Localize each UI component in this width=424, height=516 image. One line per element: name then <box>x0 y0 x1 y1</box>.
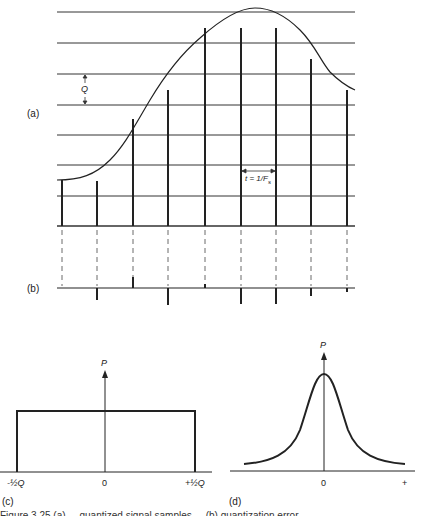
projection-lines <box>62 230 347 286</box>
panel-d-label: (d) <box>229 496 241 507</box>
d-tick-zero: 0 <box>321 478 326 488</box>
c-tick-pos-half-q: +½Q <box>185 478 205 488</box>
c-axis-label: P <box>101 358 107 368</box>
d-axis-label: P <box>320 340 326 350</box>
c-tick-neg-half-q: -½Q <box>7 478 25 488</box>
sample-interval-subscript: s <box>268 179 271 185</box>
sample-interval-label: t = 1/Fs <box>245 174 271 185</box>
figure-caption: Figure 3.25 (a) ... quantized signal sam… <box>0 510 424 516</box>
d-axis-arrow-icon <box>321 352 327 360</box>
sample-interval-indicator <box>242 169 275 173</box>
quantization-errors <box>97 277 347 305</box>
quantization-figure <box>0 0 424 516</box>
d-tick-plus: + <box>402 478 407 488</box>
c-axis-arrow-icon <box>102 370 108 378</box>
panel-c-label: (c) <box>2 496 14 507</box>
panel-a-label: (a) <box>27 108 39 119</box>
uniform-pdf <box>17 411 195 472</box>
c-tick-zero: 0 <box>102 478 107 488</box>
panel-b-label: (b) <box>27 283 39 294</box>
q-step-label: Q <box>81 84 88 94</box>
sample-interval-text: t = 1/F <box>245 174 268 183</box>
